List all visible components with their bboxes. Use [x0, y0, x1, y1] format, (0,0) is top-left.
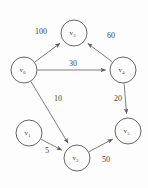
edges-layer: [31, 43, 127, 151]
graph-edge-v2-to-v5: [89, 139, 113, 152]
graph-node-v3[interactable]: v3: [61, 20, 87, 46]
graph-canvas: v0v1v2v3v4v5 10060301020550: [0, 0, 148, 188]
graph-node-v0[interactable]: v0: [11, 57, 37, 83]
edge-weight-v2-v5: 50: [102, 155, 110, 164]
graph-figure: v0v1v2v3v4v5 10060301020550: [0, 0, 148, 188]
edge-weight-v0-v4: 30: [69, 59, 77, 68]
graph-edge-v0-to-v3: [35, 43, 60, 62]
graph-edge-v4-to-v5: [124, 84, 126, 114]
graph-node-v4[interactable]: v4: [110, 57, 136, 83]
edge-weight-v4-v3: 60: [107, 31, 115, 40]
graph-node-v1[interactable]: v1: [16, 120, 42, 146]
graph-node-v2[interactable]: v2: [64, 145, 90, 171]
edge-weight-v1-v2: 5: [45, 146, 49, 155]
graph-edge-v4-to-v3: [88, 43, 112, 61]
edge-weight-v4-v5: 20: [114, 94, 122, 103]
graph-node-v5[interactable]: v5: [115, 118, 141, 144]
edge-weight-v0-v3: 100: [35, 27, 47, 36]
edge-weight-v0-v2: 10: [54, 94, 62, 103]
